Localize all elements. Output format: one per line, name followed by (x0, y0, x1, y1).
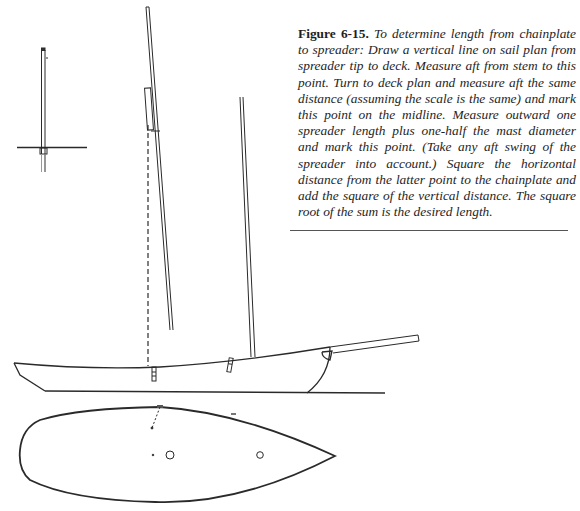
foremast (240, 97, 255, 357)
figure-caption: Figure 6-15. To determine length from ch… (298, 26, 576, 220)
hull-profile (14, 347, 385, 393)
caption-divider (290, 230, 568, 231)
figure-caption-text: To determine length from chainplate to s… (298, 26, 576, 219)
deck-plan (20, 405, 335, 502)
mainmast (145, 7, 173, 330)
bowsprit (330, 335, 419, 353)
figure-label: Figure 6-15. (298, 26, 369, 41)
mast-front-view-detail (17, 48, 87, 172)
